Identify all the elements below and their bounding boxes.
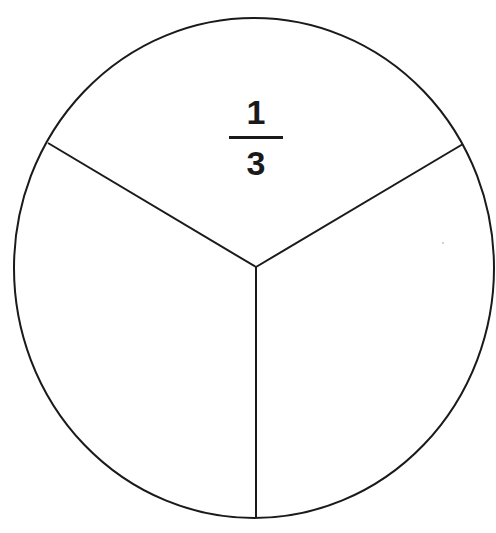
fraction-label: 1 3 bbox=[226, 94, 286, 181]
speck-mark bbox=[442, 242, 444, 244]
fraction-numerator: 1 bbox=[226, 94, 286, 130]
fraction-circle-diagram bbox=[0, 0, 496, 533]
fraction-denominator: 3 bbox=[226, 145, 286, 181]
fraction-bar bbox=[229, 136, 283, 139]
